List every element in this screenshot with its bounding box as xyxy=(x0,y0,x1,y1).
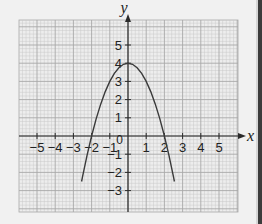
y-tick-label: −1 xyxy=(107,147,122,162)
y-tick-label: 5 xyxy=(115,38,122,53)
origin-label: 0 xyxy=(116,133,123,147)
y-tick-label: 1 xyxy=(115,110,122,125)
y-tick-label: 2 xyxy=(115,92,122,107)
graph: −5−4−3−2−112345−3−2−112345 x y 0 xyxy=(0,0,262,224)
x-axis-label: x xyxy=(246,127,254,144)
x-tick-label: −5 xyxy=(30,140,45,155)
page-edge xyxy=(258,0,262,224)
y-tick-label: −3 xyxy=(107,183,122,198)
x-tick-label: 5 xyxy=(215,140,222,155)
x-tick-label: 4 xyxy=(197,140,204,155)
x-tick-label: −4 xyxy=(48,140,63,155)
y-axis-label: y xyxy=(118,0,128,17)
x-tick-label: −3 xyxy=(66,140,81,155)
y-tick-label: 3 xyxy=(115,74,122,89)
x-tick-label: 1 xyxy=(143,140,150,155)
y-tick-label: −2 xyxy=(107,165,122,180)
x-tick-label: −2 xyxy=(84,140,99,155)
x-tick-label: 3 xyxy=(179,140,186,155)
